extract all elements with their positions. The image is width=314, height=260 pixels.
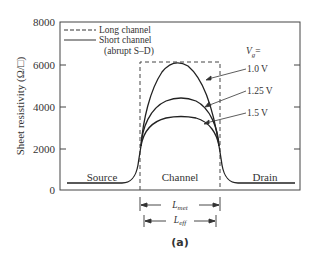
vg-1.0-label: 1.0 V xyxy=(247,64,268,74)
legend-short-channel: Short channel xyxy=(99,35,152,45)
source-label: Source xyxy=(87,171,118,183)
ytick-8000: 8000 xyxy=(33,16,56,28)
y-ticks xyxy=(60,65,300,149)
ytick-0: 0 xyxy=(50,184,56,196)
lmet-label: Lmet xyxy=(171,200,188,212)
ytick-2000: 2000 xyxy=(33,143,56,155)
chart-canvas: 0 2000 4000 6000 8000 Sheet resistivity … xyxy=(0,0,314,260)
channel-label: Channel xyxy=(162,171,199,183)
figure-caption: (a) xyxy=(171,236,188,249)
short-channel-curves xyxy=(67,63,295,183)
legend-long-channel: Long channel xyxy=(99,25,151,35)
y-axis-label: Sheet resistivity (Ω/□) xyxy=(14,56,27,155)
leff-label: Leff xyxy=(173,215,187,227)
vg-1.25-label: 1.25 V xyxy=(247,86,273,96)
ytick-6000: 6000 xyxy=(33,59,56,71)
ytick-4000: 4000 xyxy=(33,101,56,113)
vg-label: Vg= xyxy=(246,46,261,59)
plot-frame xyxy=(60,22,300,190)
legend: Long channel Short channel (abrupt S–D) xyxy=(64,25,154,57)
drain-label: Drain xyxy=(252,171,278,183)
vg-1.5-label: 1.5 V xyxy=(247,108,268,118)
legend-short-channel-sub: (abrupt S–D) xyxy=(104,46,154,57)
